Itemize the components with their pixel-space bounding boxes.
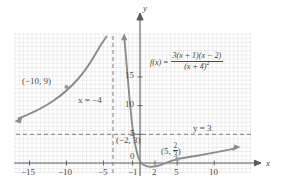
y-tick-label-10: 10 (125, 100, 134, 109)
x-axis-label: x (266, 159, 270, 168)
function-fraction: 3(x + 1)(x − 2) (x + 4)2 (171, 52, 224, 72)
function-name: f(x) = (150, 58, 169, 67)
graph-canvas (0, 0, 281, 194)
function-denominator-exponent: 2 (206, 60, 209, 66)
y-axis-arrow (137, 13, 143, 20)
y-axis-label: y (143, 4, 147, 13)
x-tick-label-neg10: −10 (58, 168, 72, 177)
y-tick-label-0: 0 (130, 152, 135, 161)
function-equation: f(x) = 3(x + 1)(x − 2) (x + 4)2 (150, 52, 223, 72)
point-label-suffix: ) (178, 146, 181, 156)
point-label-neg2-3: (−2, 3) (116, 136, 141, 145)
graph-figure: −15 −10 −5 −1 2 5 10 0 5 10 15 x y (−10,… (0, 0, 281, 194)
x-tick-label-neg1: −1 (128, 168, 138, 177)
point-label-prefix: (5, (161, 146, 173, 156)
asymptote-label-x-equals-neg4: x = −4 (78, 96, 102, 105)
x-tick-label-2: 2 (152, 168, 157, 177)
x-tick-label-10: 10 (209, 168, 218, 177)
x-tick-label-neg5: −5 (98, 168, 108, 177)
marker-point-neg10-9 (64, 85, 68, 89)
point-label-neg10-9: (−10, 9) (22, 77, 51, 86)
function-denominator-base: (x + 4) (184, 62, 206, 71)
x-tick-label-5: 5 (174, 168, 179, 177)
function-denominator: (x + 4)2 (171, 62, 224, 71)
asymptote-label-y-equals-3: y = 3 (193, 124, 212, 133)
y-tick-label-15: 15 (125, 71, 134, 80)
x-axis-arrow (255, 160, 262, 166)
x-tick-label-neg15: −15 (21, 168, 35, 177)
function-numerator: 3(x + 1)(x − 2) (171, 52, 224, 62)
point-label-5-two-thirds: (5, 23) (161, 142, 181, 158)
